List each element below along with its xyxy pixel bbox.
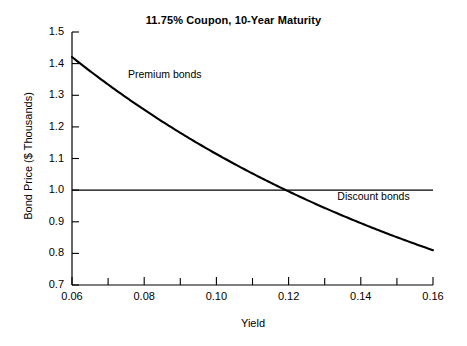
- y-tick-label: 1.3: [30, 88, 64, 100]
- x-tick-label: 0.06: [42, 290, 102, 302]
- x-tick-label: 0.16: [403, 290, 463, 302]
- y-tick-label: 1.0: [30, 183, 64, 195]
- x-tick-label: 0.12: [259, 290, 319, 302]
- x-tick-label: 0.10: [186, 290, 246, 302]
- x-tick-label: 0.08: [114, 290, 174, 302]
- x-tick-label: 0.14: [331, 290, 391, 302]
- annotation-premium-bonds: Premium bonds: [128, 68, 202, 80]
- x-axis-title: Yield: [72, 317, 434, 329]
- bond-price-curve: [72, 57, 433, 250]
- y-tick-label: 1.5: [30, 25, 64, 37]
- chart-figure: 11.75% Coupon, 10-Year Maturity: [0, 0, 467, 346]
- y-tick-label: 0.8: [30, 246, 64, 258]
- y-tick-label: 1.2: [30, 120, 64, 132]
- y-tick-label: 1.1: [30, 152, 64, 164]
- y-axis-title: Bond Price ($ Thousands): [22, 56, 34, 256]
- x-axis-ticks-minor: [108, 278, 397, 285]
- y-tick-label: 0.7: [30, 278, 64, 290]
- y-axis-ticks: [72, 32, 79, 285]
- y-tick-label: 0.9: [30, 215, 64, 227]
- annotation-discount-bonds: Discount bonds: [337, 190, 409, 202]
- y-tick-label: 1.4: [30, 57, 64, 69]
